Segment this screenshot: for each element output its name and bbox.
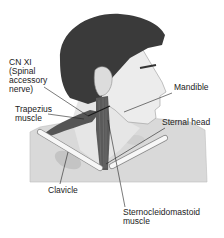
label-sternocleidomastoid: Sternocleidomastoid muscle [123,208,200,226]
neck-anatomy-diagram: CN XI (Spinal accessory nerve) Trapezius… [0,0,224,238]
label-cn-xi: CN XI (Spinal accessory nerve) [9,58,47,94]
label-trapezius: Trapezius muscle [15,105,52,123]
label-sternal-head: Sternal head [162,118,210,127]
label-mandible: Mandible [174,83,209,92]
label-clavicle: Clavicle [48,186,78,195]
